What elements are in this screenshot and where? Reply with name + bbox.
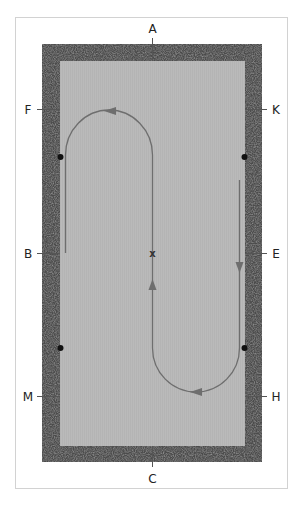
letter-a: A [148,22,157,36]
center-marker-x: x [149,248,156,259]
marker-dot-right-lower [242,345,248,351]
arena-diagram: A F K B E M H C x [0,0,303,506]
letter-k: K [272,103,281,117]
letter-m: M [23,390,33,404]
letter-c: C [148,472,156,486]
marker-dot-right-upper [242,154,248,160]
letter-e: E [272,247,280,261]
letter-f: F [25,103,32,117]
letter-h: H [271,390,280,404]
letter-b: B [24,247,32,261]
marker-dot-left-upper [58,154,64,160]
marker-dot-left-lower [58,345,64,351]
